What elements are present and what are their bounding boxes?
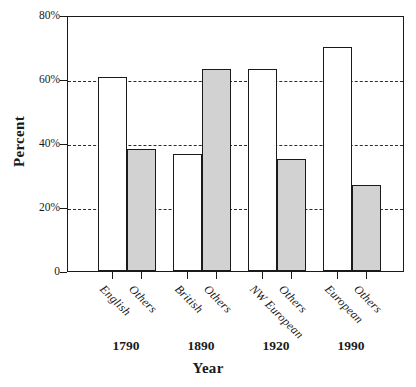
y-tickmark-20: [60, 208, 67, 209]
x-axis-group-labels: 1790189019201990: [0, 338, 416, 358]
y-tickmark-80: [60, 16, 67, 17]
year-label-1920: 1920: [246, 338, 306, 354]
bar-1790-english: [98, 77, 127, 271]
bar-1990-others: [352, 185, 381, 271]
y-tick-label-60: 60%: [22, 74, 60, 86]
y-tickmark-40: [60, 144, 67, 145]
bar-1990-european: [323, 47, 352, 271]
year-label-1890: 1890: [171, 338, 231, 354]
y-tick-label-20: 20%: [22, 202, 60, 214]
bar-chart: Percent 80% 60% 40% 20% 0 EnglishOthersB…: [0, 0, 416, 387]
y-tick-label-80: 80%: [22, 10, 60, 22]
year-label-1990: 1990: [321, 338, 381, 354]
bar-1890-british: [173, 154, 202, 271]
category-label-1890-british: British: [171, 282, 206, 317]
category-label-1890-others: Others: [200, 282, 235, 317]
bar-1790-others: [127, 149, 156, 271]
category-label-1790-english: English: [96, 282, 134, 320]
y-tick-label-40: 40%: [22, 138, 60, 150]
bar-1890-others: [202, 69, 231, 271]
year-label-1790: 1790: [96, 338, 156, 354]
x-axis-title: Year: [0, 360, 416, 377]
y-tickmark-60: [60, 80, 67, 81]
plot-area: [67, 16, 404, 272]
bar-1920-others: [277, 159, 306, 271]
bar-1920-nw-european: [248, 69, 277, 271]
